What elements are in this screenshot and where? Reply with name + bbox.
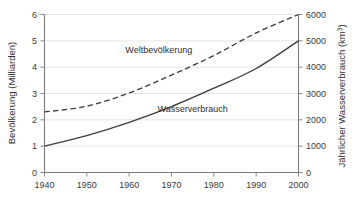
left-tick-label: 0 xyxy=(32,168,37,178)
series-label-wasserverbrauch: Wasserverbrauch xyxy=(158,104,228,114)
series-label-weltbevoelkerung: Weltbevölkerung xyxy=(125,45,192,55)
x-tick-label: 1940 xyxy=(34,180,54,190)
svg-text:Jährlicher Wasserverbrauch (km: Jährlicher Wasserverbrauch (km3) xyxy=(336,24,347,167)
right-tick-label: 4000 xyxy=(306,62,326,72)
x-tick-label: 1970 xyxy=(161,180,181,190)
right-tick-label: 3000 xyxy=(306,89,326,99)
x-tick-label: 1980 xyxy=(204,180,224,190)
x-axis-ticks-group: 1940195019601970198019902000 xyxy=(34,173,308,190)
left-tick-label: 5 xyxy=(32,36,37,46)
right-tick-label: 6000 xyxy=(306,10,326,20)
right-tick-label: 5000 xyxy=(306,36,326,46)
left-tick-label: 2 xyxy=(32,115,37,125)
gridlines-group xyxy=(45,15,299,147)
right-tick-label: 0 xyxy=(306,168,311,178)
right-axis-title-base: Jährlicher Wasserverbrauch (km xyxy=(336,31,347,167)
x-tick-label: 2000 xyxy=(288,180,308,190)
population-water-consumption-line-chart: 1940195019601970198019902000 0123456 010… xyxy=(0,0,356,206)
left-tick-label: 4 xyxy=(32,62,37,72)
left-axis-ticks-group: 0123456 xyxy=(32,10,45,178)
right-tick-label: 2000 xyxy=(306,115,326,125)
left-axis-title: Bevölkerung (Milliarden) xyxy=(6,42,17,144)
left-tick-label: 6 xyxy=(32,10,37,20)
right-axis-title-tail: ) xyxy=(336,24,347,27)
left-tick-label: 1 xyxy=(32,141,37,151)
series-line-weltbevoelkerung xyxy=(45,15,299,112)
x-tick-label: 1950 xyxy=(77,180,97,190)
x-tick-label: 1990 xyxy=(246,180,266,190)
x-tick-label: 1960 xyxy=(119,180,139,190)
chart-container: 1940195019601970198019902000 0123456 010… xyxy=(0,0,356,206)
right-axis-ticks-group: 0100020003000400050006000 xyxy=(299,10,327,178)
left-tick-label: 3 xyxy=(32,89,37,99)
right-axis-title: Jährlicher Wasserverbrauch (km3) xyxy=(336,24,347,167)
right-tick-label: 1000 xyxy=(306,141,326,151)
